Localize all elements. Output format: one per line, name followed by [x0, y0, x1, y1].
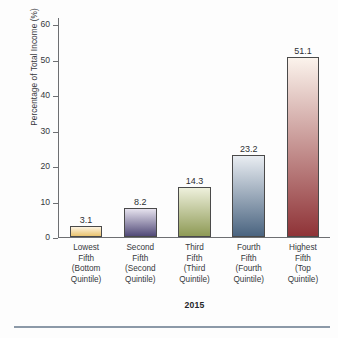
category-label-line: Quintile)	[276, 275, 330, 286]
category-label: FourthFifth(FourthQuintile)	[222, 243, 276, 285]
bar-slot: 23.2	[222, 18, 276, 237]
category-label-line: (Top	[276, 264, 330, 275]
y-tick-mark	[53, 96, 58, 97]
category-label-line: (Second	[113, 264, 167, 275]
bar[interactable]: 51.1	[287, 57, 320, 237]
bar-value-label: 3.1	[80, 215, 93, 225]
category-label-line: Fifth	[59, 254, 113, 265]
category-label-line: Fifth	[222, 254, 276, 265]
category-label: SecondFifth(SecondQuintile)	[113, 243, 167, 285]
bar[interactable]: 14.3	[178, 187, 211, 238]
category-label-line: Quintile)	[222, 275, 276, 286]
y-tick-mark	[53, 25, 58, 26]
footer-divider	[14, 326, 330, 328]
bar-value-label: 51.1	[294, 46, 312, 56]
bar[interactable]: 8.2	[124, 208, 157, 237]
category-label: LowestFifth(BottomQuintile)	[59, 243, 113, 285]
bar-series: 3.18.214.323.251.1	[59, 18, 330, 237]
category-label-line: Quintile)	[59, 275, 113, 286]
plot-area: 0102030405060 3.18.214.323.251.1	[58, 18, 330, 238]
category-label-line: Highest	[276, 243, 330, 254]
category-label-line: Fifth	[113, 254, 167, 265]
y-tick-label: 0	[24, 232, 50, 242]
category-label-line: (Bottom	[59, 264, 113, 275]
category-label: HighestFifth(TopQuintile)	[276, 243, 330, 285]
x-axis-title: 2015	[59, 300, 330, 310]
bar-value-label: 23.2	[240, 144, 258, 154]
x-axis-line	[58, 237, 330, 238]
bar-value-label: 8.2	[134, 197, 147, 207]
bar-value-label: 14.3	[186, 176, 204, 186]
y-tick-label: 20	[24, 161, 50, 171]
bar-slot: 8.2	[113, 18, 167, 237]
category-label-line: Third	[167, 243, 221, 254]
category-label-line: Fifth	[167, 254, 221, 265]
bar[interactable]: 23.2	[232, 155, 265, 237]
y-tick-label: 30	[24, 126, 50, 136]
category-label-line: Second	[113, 243, 167, 254]
category-label-line: Quintile)	[167, 275, 221, 286]
y-tick-label: 50	[24, 55, 50, 65]
category-label-line: Fifth	[276, 254, 330, 265]
y-tick-label: 60	[24, 19, 50, 29]
y-tick-mark	[53, 61, 58, 62]
category-label: ThirdFifth(ThirdQuintile)	[167, 243, 221, 285]
chart-figure: Percentage of Total Income (%) 010203040…	[0, 0, 338, 338]
x-axis-category-labels: LowestFifth(BottomQuintile)SecondFifth(S…	[59, 243, 330, 285]
bar-slot: 14.3	[167, 18, 221, 237]
category-label-line: (Third	[167, 264, 221, 275]
bar[interactable]: 3.1	[70, 226, 103, 237]
bar-slot: 51.1	[276, 18, 330, 237]
category-label-line: Lowest	[59, 243, 113, 254]
y-tick-mark	[53, 238, 58, 239]
y-tick-mark	[53, 203, 58, 204]
bar-slot: 3.1	[59, 18, 113, 237]
y-tick-mark	[53, 167, 58, 168]
y-tick-label: 10	[24, 197, 50, 207]
category-label-line: Quintile)	[113, 275, 167, 286]
y-tick-label: 40	[24, 90, 50, 100]
y-tick-mark	[53, 132, 58, 133]
category-label-line: (Fourth	[222, 264, 276, 275]
category-label-line: Fourth	[222, 243, 276, 254]
